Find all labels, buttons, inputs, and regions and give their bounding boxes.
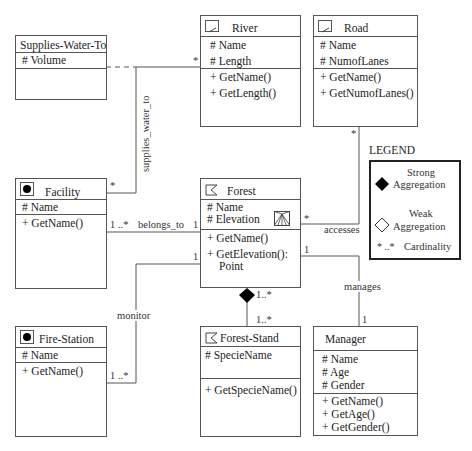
- class-title: Manager: [325, 333, 366, 346]
- attributes-section: # Volume: [16, 52, 106, 69]
- multiplicity-forest-composition: 1..*: [256, 289, 272, 300]
- legend-title: LEGEND: [369, 144, 415, 157]
- class-title: Fire-Station: [39, 333, 94, 346]
- operations-section: + GetName() + GetElevation(): Point: [201, 229, 300, 230]
- line-icon: [318, 20, 332, 32]
- attribute: # Name: [322, 353, 358, 366]
- operation: + GetName(): [322, 395, 383, 408]
- operation-return-type: Point: [219, 260, 243, 273]
- operation: + GetSpecieName(): [205, 384, 297, 397]
- class-title: Forest-Stand: [220, 332, 279, 345]
- monitor-line: [106, 264, 200, 383]
- attributes-section: # Name # Length: [201, 36, 300, 69]
- attribute: # NumofLanes: [320, 55, 389, 68]
- attributes-section: # SpecieName: [201, 346, 300, 379]
- multiplicity-forest-monitor: 1: [193, 251, 198, 262]
- class-title: Facility: [45, 186, 80, 199]
- class-river[interactable]: River # Name # Length + GetName() + GetL…: [200, 15, 301, 127]
- operations-section: + GetName() + GetAge() + GetGender(): [314, 393, 417, 394]
- association-label-accesses: accesses: [324, 224, 360, 235]
- operations-section: [16, 68, 106, 69]
- multiplicity-manager-manages: 1: [362, 314, 367, 325]
- class-road[interactable]: Road # Name # NumofLanes + GetName() + G…: [313, 15, 418, 127]
- class-title: Forest: [227, 185, 256, 198]
- multiplicity-facility-belongs: 1 ..*: [110, 219, 128, 230]
- association-label-belongs-to: belongs_to: [138, 219, 184, 230]
- point-icon: [20, 182, 34, 196]
- class-title: Road: [344, 22, 368, 35]
- operations-section: + GetName(): [16, 214, 106, 215]
- legend-cardinality-label: Cardinality: [404, 241, 451, 252]
- operations-section: + GetName(): [16, 362, 106, 363]
- raster-grid-icon: [274, 211, 290, 226]
- attribute: # Age: [322, 366, 349, 379]
- multiplicity-forest-manages: 1: [304, 244, 309, 255]
- attributes-section: # Name # Elevation: [201, 199, 300, 230]
- attribute: # Name: [320, 39, 356, 52]
- attribute: # Name: [22, 201, 58, 214]
- attribute: # Length: [210, 55, 251, 68]
- multiplicity-river-supplies: *: [193, 55, 198, 66]
- attribute: # Volume: [22, 54, 66, 67]
- association-label-supplies-water-to: supplies_water_to: [140, 96, 151, 172]
- accesses-line: [300, 126, 359, 224]
- multiplicity-firestation-monitor: 1 ..*: [110, 370, 128, 381]
- operation: + GetAge(): [322, 408, 375, 421]
- operation: + GetName(): [207, 232, 268, 245]
- legend-strong-line2: Aggregation: [393, 179, 446, 190]
- association-label-monitor: monitor: [117, 310, 150, 321]
- multiplicity-stand-composition: 1..*: [256, 314, 272, 325]
- class-title: Supplies-Water-To: [20, 39, 106, 52]
- class-forest-stand[interactable]: Forest-Stand # SpecieName + GetSpecieNam…: [200, 326, 301, 437]
- legend-cardinality-symbol: * ..*: [377, 241, 395, 252]
- weak-aggregation-icon: [374, 217, 390, 233]
- attributes-section: # Name # NumofLanes: [314, 36, 417, 69]
- attribute: # Name: [210, 39, 246, 52]
- supplies-water-to-line: [106, 67, 200, 193]
- class-facility[interactable]: Facility # Name + GetName(): [15, 178, 107, 289]
- class-manager[interactable]: Manager # Name # Age # Gender + GetName(…: [313, 326, 418, 436]
- legend-strong-line1: Strong: [407, 167, 435, 178]
- operation: + GetNumofLanes(): [320, 87, 414, 100]
- operation: + GetLength(): [210, 87, 276, 100]
- class-supplies-water-to[interactable]: Supplies-Water-To # Volume: [15, 35, 107, 100]
- operations-section: + GetName() + GetNumofLanes(): [314, 68, 417, 69]
- attributes-section: # Name # Age # Gender: [314, 350, 417, 394]
- attributes-section: # Name: [16, 347, 106, 363]
- strong-aggregation-icon: [374, 176, 390, 192]
- attributes-section: # Name: [16, 199, 106, 215]
- association-label-manages: manages: [344, 281, 381, 292]
- legend-weak-line1: Weak: [409, 208, 433, 219]
- operation: + GetName(): [320, 71, 381, 84]
- multiplicity-forest-belongs: 1: [193, 219, 198, 230]
- legend-weak-line2: Aggregation: [393, 221, 446, 232]
- legend-box: Strong Aggregation Weak Aggregation * ..…: [369, 160, 461, 260]
- class-title: River: [232, 22, 258, 35]
- polygon-icon: [205, 330, 218, 342]
- operation: + GetName(): [22, 217, 83, 230]
- attribute: # Name: [22, 349, 58, 362]
- attribute: # Elevation: [207, 213, 260, 226]
- class-fire-station[interactable]: Fire-Station # Name + GetName(): [15, 326, 107, 437]
- class-forest[interactable]: Forest # Name # Elevation + GetName() + …: [200, 178, 301, 288]
- multiplicity-forest-accesses: *: [304, 213, 309, 224]
- multiplicity-road-accesses: *: [351, 128, 356, 139]
- polygon-icon: [205, 182, 218, 194]
- operation: + GetName(): [210, 71, 271, 84]
- operations-section: + GetName() + GetLength(): [201, 68, 300, 69]
- operation: + GetName(): [22, 365, 83, 378]
- operation: + GetGender(): [322, 421, 389, 434]
- point-icon: [20, 330, 34, 344]
- attribute: # SpecieName: [205, 349, 272, 362]
- operations-section: + GetSpecieName(): [201, 378, 300, 379]
- multiplicity-facility-supplies: *: [110, 180, 115, 191]
- strong-aggregation-diamond: [239, 288, 255, 303]
- line-icon: [205, 20, 219, 32]
- attribute: # Gender: [322, 379, 364, 392]
